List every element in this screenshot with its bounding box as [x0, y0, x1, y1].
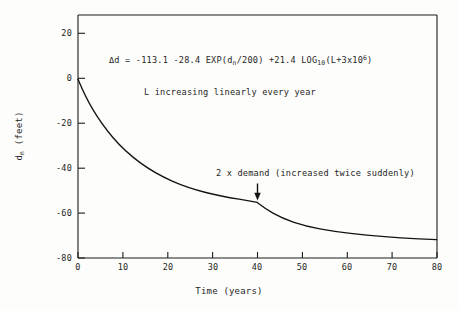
y-tick-label-neg40: -40 — [50, 163, 72, 173]
y-axis-label: dn (feet) — [14, 111, 26, 160]
x-tick-marks — [78, 252, 437, 258]
y-tick-label-neg20: -20 — [50, 118, 72, 128]
x-tick-label-40: 40 — [252, 262, 263, 272]
y-tick-label-20: 20 — [50, 28, 72, 38]
equation-annotation: Δd = -113.1 -28.4 EXP(dn/200) +21.4 LOG1… — [109, 54, 372, 67]
equation-close-paren: ) — [367, 55, 372, 65]
y-tick-label-0: 0 — [50, 73, 72, 83]
data-curve-segment-1 — [78, 79, 257, 202]
figure-container: 0 10 20 30 40 50 60 70 80 20 0 -20 -40 -… — [0, 0, 458, 310]
x-tick-label-60: 60 — [342, 262, 353, 272]
demand-doubling-note: 2 x demand (increased twice suddenly) — [216, 168, 415, 178]
linear-growth-note: L increasing linearly every year — [144, 87, 316, 97]
y-tick-marks — [78, 33, 85, 258]
x-tick-label-10: 10 — [118, 262, 129, 272]
demand-doubling-arrow-icon — [254, 184, 260, 201]
y-axis-label-main: d — [14, 155, 24, 161]
x-tick-label-50: 50 — [297, 262, 308, 272]
x-axis-label: Time (years) — [195, 286, 262, 296]
y-axis-label-subscript: n — [18, 151, 26, 155]
x-tick-label-80: 80 — [432, 262, 443, 272]
y-tick-label-neg80: -80 — [50, 253, 72, 263]
x-tick-label-20: 20 — [163, 262, 174, 272]
data-curve-segment-2 — [258, 203, 437, 240]
x-tick-label-70: 70 — [387, 262, 398, 272]
equation-tail: (L+3x10 — [325, 55, 363, 65]
equation-head: Δd = -113.1 -28.4 EXP(d — [109, 55, 233, 65]
y-tick-label-neg60: -60 — [50, 208, 72, 218]
x-tick-label-30: 30 — [208, 262, 219, 272]
x-tick-label-0: 0 — [75, 262, 80, 272]
plot-frame — [78, 15, 437, 258]
equation-mid: /200) +21.4 LOG — [237, 55, 318, 65]
y-axis-label-unit: (feet) — [14, 111, 24, 150]
